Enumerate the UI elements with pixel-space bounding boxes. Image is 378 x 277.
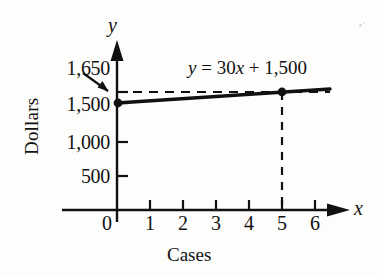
y-tick-label-1000: 1,000 bbox=[46, 132, 110, 152]
equation-slope: 30 bbox=[217, 57, 236, 78]
x-tick-label-0: 0 bbox=[97, 213, 117, 233]
x-axis-title: Cases bbox=[167, 245, 211, 264]
x-tick-label-2: 2 bbox=[173, 213, 193, 233]
cost-line bbox=[117, 89, 330, 103]
x-axis-symbol: x bbox=[354, 198, 363, 218]
chart-figure: y x 1,650 1,500 1,000 500 0 1 2 3 4 5 6 … bbox=[0, 0, 378, 277]
equation-intercept: 1,500 bbox=[264, 57, 307, 78]
x-tick-label-1: 1 bbox=[140, 213, 160, 233]
equation-equals: = bbox=[196, 57, 216, 78]
y-tick-label-1650: 1,650 bbox=[46, 58, 110, 78]
y-tick-label-500: 500 bbox=[46, 166, 110, 186]
equation-plus: + bbox=[244, 57, 264, 78]
x-tick-label-3: 3 bbox=[206, 213, 226, 233]
equation-label: y = 30x + 1,500 bbox=[188, 58, 307, 77]
y-axis-title: Dollars bbox=[22, 98, 41, 155]
y-axis-symbol: y bbox=[108, 15, 117, 35]
x-tick-label-4: 4 bbox=[239, 213, 259, 233]
x-axis-ticks bbox=[150, 200, 315, 210]
data-point-x5 bbox=[278, 88, 287, 97]
y-axis bbox=[111, 40, 124, 222]
y-tick-label-1500: 1,500 bbox=[46, 94, 110, 114]
equation-variable: x bbox=[236, 57, 244, 78]
data-point-intercept bbox=[114, 99, 123, 108]
x-tick-label-5: 5 bbox=[272, 213, 292, 233]
x-tick-label-6: 6 bbox=[305, 213, 325, 233]
scan-artifact bbox=[359, 22, 365, 27]
